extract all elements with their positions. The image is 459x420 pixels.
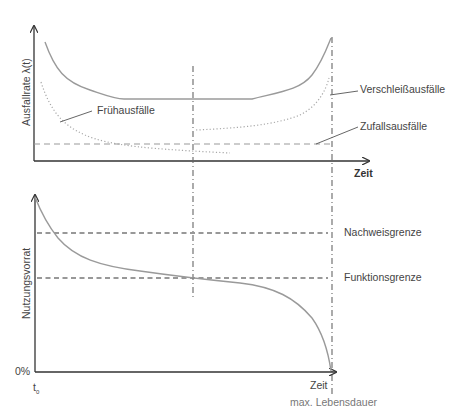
wearout-failures-curve [196,78,329,130]
zero-percent-label: 0% [15,366,30,377]
t0-subscript: 0 [36,389,39,395]
function-limit-label: Funktionsgrenze [344,272,422,283]
detection-limit-label: Nachweisgrenze [344,227,422,238]
top-time-axis-label: Zeit [354,168,373,179]
early-failures-curve [41,82,230,153]
failure-rate-chart [34,26,369,161]
random-failures-label: Zufallsausfälle [360,121,427,132]
wearout-failures-label: Verschleißausfälle [360,84,445,95]
max-life-label: max. Lebensdauer [290,397,377,408]
early-failures-label: Frühausfälle [97,105,155,116]
wearout-failures-leader [330,91,358,95]
usage-reserve-curve [35,197,331,371]
t0-label: t0 [33,382,39,395]
usage-reserve-chart [35,195,336,372]
usage-reserve-axis-label: Nutzungsvorrat [21,248,32,319]
bottom-time-axis-label: Zeit [310,380,328,391]
bathtub-curve [45,38,331,99]
failure-rate-axis-label: Ausfallrate λ(t) [21,58,32,126]
early-failures-leader [60,111,92,122]
random-failures-leader [316,127,358,144]
reliability-diagram [0,0,459,420]
